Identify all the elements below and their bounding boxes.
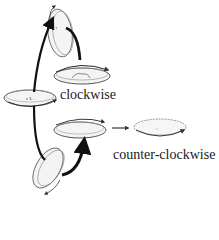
left-flat-disc: c L bbox=[4, 90, 56, 107]
svg-text:↑: ↑ bbox=[55, 26, 58, 31]
clockwise-disc bbox=[54, 65, 110, 84]
middle-flat-disc bbox=[54, 119, 106, 138]
counter-clockwise-disc: ·: bbox=[134, 119, 186, 136]
bottom-tilted-disc bbox=[27, 143, 70, 194]
svg-text:·:: ·: bbox=[155, 126, 158, 131]
counter-clockwise-label: counter-clockwise bbox=[113, 148, 215, 162]
clockwise-label: clockwise bbox=[60, 88, 116, 102]
svg-text:c L: c L bbox=[26, 96, 33, 101]
